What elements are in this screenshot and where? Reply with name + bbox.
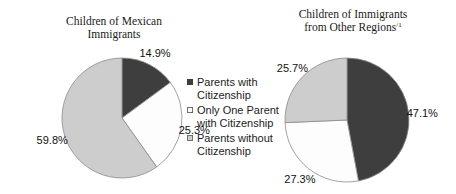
legend-item-parents-without-citizenship: Parents without Citizenship <box>187 132 291 157</box>
left-pie-title-line1: Children of Mexican <box>66 15 162 27</box>
right-pie-title: Children of Immigrants from Other Region… <box>283 8 423 33</box>
pie-1: 47.1%27.3%25.7% <box>277 58 438 185</box>
immigrant-citizenship-pie-figure: 14.9%25.3%59.8%47.1%27.3%25.7% Children … <box>0 0 456 194</box>
pie-1-slice-0 <box>347 58 409 181</box>
legend-swatch-only-one-parent-with-citizenship <box>187 107 193 113</box>
legend-swatch-parents-without-citizenship <box>187 135 193 141</box>
right-pie-title-line2: from Other Regions <box>304 21 396 33</box>
title-footnote-superscript: /1 <box>396 21 401 29</box>
pie-0-value-label-2: 59.8% <box>37 134 68 146</box>
legend: Parents with Citizenship Only One Parent… <box>187 76 291 160</box>
left-pie-title: Children of Mexican Immigrants <box>44 15 184 40</box>
legend-label-parents-without-citizenship: Parents without Citizenship <box>197 132 273 157</box>
legend-text-line: Citizenship <box>197 145 251 157</box>
legend-label-only-one-parent-with-citizenship: Only One Parent with Citizenship <box>197 104 279 129</box>
pie-1-value-label-2: 25.7% <box>277 62 308 74</box>
legend-text-line: Citizenship <box>197 89 251 101</box>
legend-swatch-parents-with-citizenship <box>187 79 193 85</box>
right-pie-title-line1: Children of Immigrants <box>299 8 408 20</box>
legend-text-line: Parents without <box>197 132 273 144</box>
left-pie-title-line2: Immigrants <box>87 28 140 40</box>
pie-0: 14.9%25.3%59.8% <box>37 47 211 178</box>
legend-text-line: Only One Parent <box>197 104 279 116</box>
legend-item-only-one-parent-with-citizenship: Only One Parent with Citizenship <box>187 104 291 129</box>
legend-item-parents-with-citizenship: Parents with Citizenship <box>187 76 291 101</box>
pie-1-value-label-1: 27.3% <box>284 173 315 185</box>
legend-text-line: with Citizenship <box>197 117 273 129</box>
pie-0-value-label-0: 14.9% <box>139 47 170 59</box>
legend-text-line: Parents with <box>197 76 258 88</box>
legend-label-parents-with-citizenship: Parents with Citizenship <box>197 76 258 101</box>
pie-1-value-label-0: 47.1% <box>407 107 438 119</box>
